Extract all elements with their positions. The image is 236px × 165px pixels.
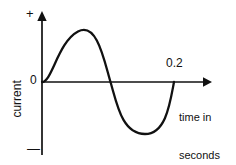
y-axis-negative-marker: — xyxy=(27,142,40,157)
y-axis-arrowhead xyxy=(37,11,46,21)
sine-wave-figure: + — 0 0.2 time in seconds current xyxy=(0,0,236,165)
y-axis-positive-marker: + xyxy=(26,7,34,22)
x-axis-tick-label-0.2: 0.2 xyxy=(166,57,183,71)
origin-label: 0 xyxy=(30,74,37,88)
x-axis-title: time in seconds xyxy=(179,86,220,165)
y-axis-title: current xyxy=(11,68,25,130)
x-axis-title-line1: time in xyxy=(179,111,220,124)
x-axis-title-line2: seconds xyxy=(179,149,220,162)
